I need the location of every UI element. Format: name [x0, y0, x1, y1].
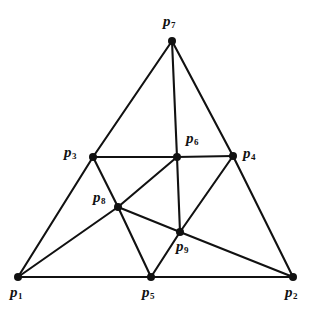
vertex-label-p7: p7 [163, 14, 175, 29]
vertex-label-base: p [243, 145, 251, 161]
vertex-label-subscript: 3 [72, 151, 77, 161]
vertex-label-base: p [142, 284, 150, 300]
vertex-label-p9: p9 [176, 239, 188, 254]
graph-edge [118, 157, 177, 207]
graph-edge [18, 157, 93, 277]
vertex-label-subscript: 4 [251, 152, 256, 162]
graph-edge [233, 156, 293, 277]
vertex-label-p1: p1 [10, 285, 22, 300]
vertex-label-subscript: 2 [293, 291, 298, 301]
triangulation-diagram: p1p2p3p4p5p6p7p8p9 [0, 0, 316, 319]
vertex-label-base: p [93, 189, 101, 205]
graph-edge [180, 232, 293, 277]
graph-vertex-p5[interactable] [147, 273, 155, 281]
graph-edge [177, 156, 233, 157]
vertex-label-base: p [285, 284, 293, 300]
graph-edge [172, 41, 233, 156]
vertex-label-p8: p8 [93, 190, 105, 205]
vertex-label-base: p [186, 130, 194, 146]
vertex-label-base: p [176, 238, 184, 254]
vertex-label-subscript: 6 [194, 137, 199, 147]
graph-vertex-p2[interactable] [289, 273, 297, 281]
vertex-label-subscript: 5 [150, 291, 155, 301]
graph-edge [18, 207, 118, 277]
vertex-label-subscript: 9 [184, 245, 189, 255]
graph-edge [177, 157, 180, 232]
graph-vertex-p1[interactable] [14, 273, 22, 281]
vertex-label-p2: p2 [285, 285, 297, 300]
graph-vertex-p7[interactable] [168, 37, 176, 45]
vertex-label-p5: p5 [142, 285, 154, 300]
graph-canvas [0, 0, 316, 319]
graph-vertex-p8[interactable] [114, 203, 122, 211]
graph-vertex-p3[interactable] [89, 153, 97, 161]
vertex-label-p6: p6 [186, 131, 198, 146]
vertex-label-base: p [64, 144, 72, 160]
graph-vertex-p4[interactable] [229, 152, 237, 160]
graph-edge [180, 156, 233, 232]
graph-vertex-p9[interactable] [176, 228, 184, 236]
vertex-label-base: p [10, 284, 18, 300]
graph-edge [172, 41, 177, 157]
vertex-label-p4: p4 [243, 146, 255, 161]
vertex-label-subscript: 1 [18, 291, 23, 301]
graph-edge [93, 41, 172, 157]
vertex-label-subscript: 7 [171, 20, 176, 30]
vertex-label-base: p [163, 13, 171, 29]
vertex-label-subscript: 8 [101, 196, 106, 206]
vertex-label-p3: p3 [64, 145, 76, 160]
graph-vertex-p6[interactable] [173, 153, 181, 161]
